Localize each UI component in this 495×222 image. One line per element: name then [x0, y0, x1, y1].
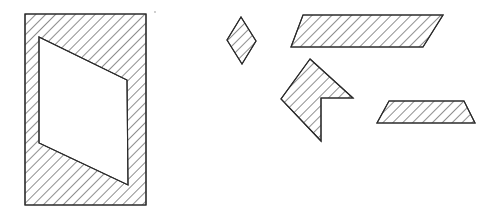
geometry-figure [0, 0, 495, 222]
stray-speck [154, 11, 156, 13]
